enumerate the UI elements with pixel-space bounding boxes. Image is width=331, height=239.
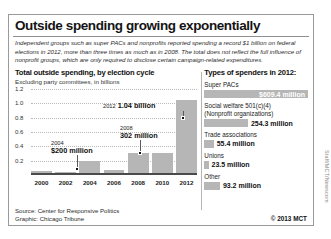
spenders-title: Types of spenders in 2012:: [204, 69, 308, 77]
annotation-2008: 2008 302 million: [120, 126, 158, 140]
spender-item: Other93.2 million: [204, 173, 308, 190]
spender-label: Trade associations: [204, 131, 308, 139]
spender-bar-row: 254.3 million: [204, 119, 308, 127]
chart-x-axis-labels: 2000200220042006200820102012: [31, 179, 197, 186]
annotation-2012-value: 1.04 billion: [118, 102, 156, 110]
x-axis-label-2002: 2002: [55, 179, 76, 186]
deck-text: Independent groups such as super PACs an…: [9, 39, 313, 65]
spender-bar-row: 55.4 million: [204, 140, 308, 148]
bar-2008: [128, 153, 149, 175]
bar-chart: 1.21.00.80.60.40.2 200020022004200620082…: [15, 89, 197, 186]
annotation-2004-value: $200 million: [51, 147, 93, 155]
spender-sublabel: (Nonprofit organizations): [204, 110, 308, 118]
spender-value: 93.2 million: [220, 182, 261, 189]
graphic-line: Graphic: Chicago Tribune: [15, 215, 119, 223]
spender-bar-row: 23.5 million: [204, 161, 308, 169]
annotation-2008-value: 302 million: [120, 132, 158, 140]
spender-label: Unions: [204, 152, 308, 160]
x-axis-label-2008: 2008: [128, 179, 149, 186]
y-axis-tick: 1.0: [15, 100, 29, 106]
spender-bar: [204, 182, 220, 190]
bar-slot: [55, 89, 76, 175]
x-axis-label-2004: 2004: [79, 179, 100, 186]
annotation-2004-marker: [75, 167, 79, 171]
y-axis-tick: 0.4: [15, 143, 29, 149]
spenders-panel: Types of spenders in 2012: Super PACs$60…: [200, 69, 308, 190]
bar-2012: [176, 100, 197, 175]
bar-slot: [79, 89, 100, 175]
chart-title: Total outside spending, by election cycl…: [15, 69, 200, 77]
spender-label: Social welfare 501(c)(4): [204, 102, 308, 110]
annotation-2012-year: 2012: [103, 104, 116, 110]
spender-value: 254.3 million: [248, 120, 293, 127]
copyright-credit: © 2013 MCT: [271, 215, 307, 223]
panel-divider: [201, 72, 202, 210]
y-axis-tick: 0.8: [15, 114, 29, 120]
title-divider: [13, 36, 309, 37]
bar-2010: [152, 153, 173, 175]
annotation-2008-marker: [138, 151, 142, 155]
infographic-body: Total outside spending, by election cycl…: [9, 65, 313, 190]
annotation-2012-marker: [181, 116, 185, 120]
spender-bar-row: 93.2 million: [204, 182, 308, 190]
spender-bar: [204, 140, 213, 148]
x-axis-label-2006: 2006: [104, 179, 125, 186]
spender-label: Other: [204, 173, 308, 181]
bar-slot: [31, 89, 52, 175]
y-axis-tick: 0.2: [15, 157, 29, 163]
x-axis-label-2010: 2010: [152, 179, 173, 186]
side-credit: Staff/MCT/Newscom: [324, 150, 330, 203]
x-axis-label-2000: 2000: [31, 179, 52, 186]
page-title: Outside spending growing exponentially: [9, 15, 313, 35]
spender-value: $609.4 million: [259, 91, 308, 98]
spender-bar: [204, 119, 248, 127]
spender-item: Super PACs$609.4 million: [204, 81, 308, 98]
infographic-frame: Outside spending growing exponentially I…: [8, 14, 314, 226]
footer: Source: Center for Responsive Politics G…: [9, 207, 313, 223]
spender-label: Super PACs: [204, 81, 308, 89]
annotation-2004: 2004 $200 million: [51, 141, 93, 155]
spenders-list: Super PACs$609.4 millionSocial welfare 5…: [204, 81, 308, 189]
y-axis-tick: 0.6: [15, 128, 29, 134]
chart-panel: Total outside spending, by election cycl…: [15, 69, 200, 190]
spender-value: 55.4 million: [214, 140, 255, 147]
spender-bar: $609.4 million: [204, 90, 308, 98]
x-axis-label-2012: 2012: [176, 179, 197, 186]
spender-item: Trade associations55.4 million: [204, 131, 308, 148]
chart-x-axis-line: [31, 173, 197, 175]
spender-bar-row: $609.4 million: [204, 90, 308, 98]
y-axis-tick: 1.2: [15, 85, 29, 91]
chart-subtitle: Excluding party committees, in billions: [15, 78, 200, 85]
bar-slot: [176, 89, 197, 175]
spender-item: Unions23.5 million: [204, 152, 308, 169]
footer-sources: Source: Center for Responsive Politics G…: [15, 207, 119, 223]
spender-value: 23.5 million: [209, 161, 250, 168]
spender-item: Social welfare 501(c)(4)(Nonprofit organ…: [204, 102, 308, 127]
source-line: Source: Center for Responsive Politics: [15, 207, 119, 215]
annotation-2012: 2012 1.04 billion: [103, 102, 155, 110]
